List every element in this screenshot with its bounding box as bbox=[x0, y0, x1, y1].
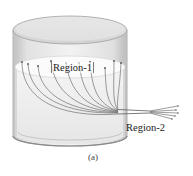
diagram-figure: Region-1 Region-2 (a) bbox=[0, 0, 193, 176]
figure-caption: (a) bbox=[88, 152, 98, 162]
cylinder-diagram bbox=[0, 0, 193, 176]
region-2-label: Region-2 bbox=[126, 122, 165, 133]
cylinder-body bbox=[13, 30, 127, 146]
region-1-label: Region-1 bbox=[51, 62, 94, 73]
